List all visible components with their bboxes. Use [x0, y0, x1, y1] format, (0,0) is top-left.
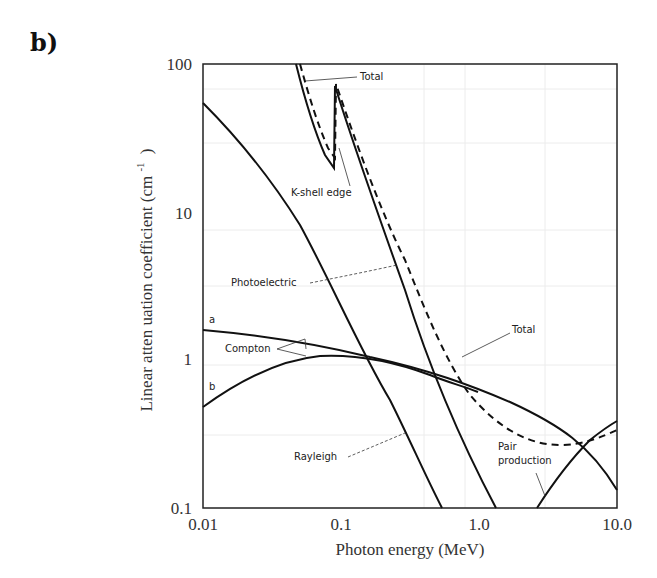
- x-tick-1.0: 1.0: [468, 515, 489, 534]
- x-tick-0.1: 0.1: [330, 515, 351, 534]
- annotation-pair: Pair: [498, 441, 517, 452]
- leader-k-shell-edge: [339, 148, 350, 186]
- leader-pair-production: [536, 473, 545, 496]
- y-tick-10: 10: [175, 204, 192, 223]
- svg-text:Linear atten uation coefficien: Linear atten uation coefficient (cm -1 ): [129, 148, 156, 411]
- rayleigh-curve: [203, 103, 442, 508]
- leader-rayleigh: [348, 433, 405, 457]
- y-tick-100: 100: [167, 55, 193, 74]
- y-axis-title-close: ): [137, 148, 156, 154]
- annotation-production: production: [498, 455, 552, 466]
- annotation-compton: Compton: [225, 343, 271, 354]
- annotation-total-upper: Total: [359, 71, 383, 82]
- y-tick-1: 1: [184, 350, 193, 369]
- annotation-k-shell-edge: K-shell edge: [291, 187, 352, 198]
- y-axis-title-superscript: -1: [134, 162, 146, 171]
- y-axis-title: Linear atten uation coefficient (cm -1 ): [129, 148, 156, 411]
- total-curve: [300, 64, 617, 445]
- x-axis-title: Photon energy (MeV): [336, 540, 485, 559]
- annotation-rayleigh: Rayleigh: [294, 451, 337, 462]
- leader-total-lower: [462, 333, 510, 357]
- annotation-compton-b-label: b: [209, 381, 215, 392]
- annotation-total-lower: Total: [511, 324, 535, 335]
- x-tick-10.0: 10.0: [602, 515, 632, 534]
- leader-total-upper: [305, 77, 357, 81]
- chart: 100 10 1 0.1 0.01 0.1 1.0 10.0 Photon en…: [0, 0, 657, 578]
- x-tick-0.01: 0.01: [188, 515, 218, 534]
- compton-a-curve: [203, 330, 617, 490]
- annotation-photoelectric: Photoelectric: [231, 277, 296, 288]
- annotation-compton-a-label: a: [209, 314, 215, 325]
- y-axis-title-main: Linear atten uation coefficient (cm: [137, 176, 156, 412]
